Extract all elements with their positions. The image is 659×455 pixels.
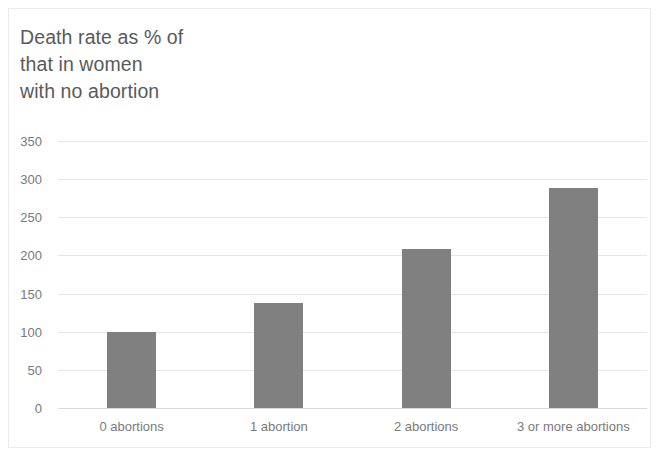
x-axis-category-label: 0 abortions: [58, 420, 205, 434]
y-axis-tick-label: 300: [20, 173, 42, 186]
plot-area: [58, 141, 647, 408]
y-axis-tick-label: 200: [20, 249, 42, 262]
bar: [254, 303, 303, 408]
y-axis-tick-label: 100: [20, 326, 42, 339]
y-axis-tick-label: 250: [20, 211, 42, 224]
y-axis-tick-label: 50: [28, 364, 42, 377]
y-axis-tick-label: 350: [20, 135, 42, 148]
y-axis-tick-label: 150: [20, 288, 42, 301]
bar: [107, 332, 156, 408]
bar: [402, 249, 451, 408]
chart-title-line: with no abortion: [20, 78, 320, 105]
x-axis-category-label: 2 abortions: [353, 420, 500, 434]
gridline: [58, 141, 647, 142]
bar-chart: Death rate as % ofthat in womenwith no a…: [0, 0, 659, 455]
y-axis: 050100150200250300350: [0, 141, 50, 408]
chart-title: Death rate as % ofthat in womenwith no a…: [20, 24, 320, 105]
bar: [549, 188, 598, 408]
gridline: [58, 179, 647, 180]
chart-title-line: Death rate as % of: [20, 24, 320, 51]
x-axis-category-label: 3 or more abortions: [500, 420, 647, 434]
x-axis-category-label: 1 abortion: [205, 420, 352, 434]
y-axis-tick-label: 0: [35, 402, 42, 415]
chart-title-line: that in women: [20, 51, 320, 78]
x-axis-line: [58, 408, 647, 409]
